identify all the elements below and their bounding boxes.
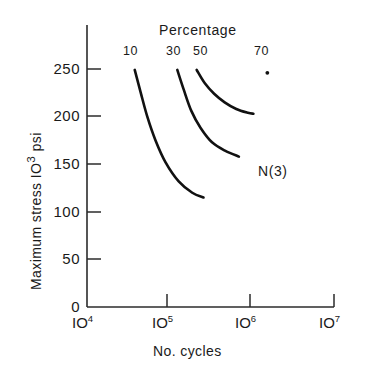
y-axis-title-exponent: 3 — [24, 156, 37, 163]
x-tick-exp-1e7: 7 — [335, 313, 340, 324]
y-tick-label-200: 200 — [36, 107, 80, 124]
data-series-layer — [135, 70, 269, 198]
y-axis-title-main: Maximum stress IO — [28, 163, 44, 290]
legend-title: Percentage — [159, 22, 237, 38]
x-axis-ticks — [167, 294, 334, 307]
x-tick-base-1e6: IO — [235, 314, 251, 331]
series-label-30: 30 — [166, 44, 181, 58]
data-curve-50 — [197, 70, 254, 114]
x-tick-label-1e4: IO4 — [72, 313, 93, 331]
x-axis-title: No. cycles — [153, 343, 222, 359]
x-tick-label-1e6: IO6 — [235, 313, 256, 331]
annotation-n3: N(3) — [258, 163, 288, 179]
data-curve-30 — [177, 70, 239, 157]
x-tick-label-1e7: IO7 — [319, 313, 340, 331]
series-label-50: 50 — [193, 44, 208, 58]
y-axis-ticks — [87, 69, 101, 259]
data-point-70 — [265, 71, 269, 75]
y-axis-title: Maximum stress IO3 psi — [24, 132, 44, 290]
series-label-70: 70 — [254, 44, 269, 58]
y-axis-title-suffix: psi — [28, 132, 44, 155]
data-curve-10 — [135, 70, 204, 198]
x-tick-exp-1e4: 4 — [88, 313, 93, 324]
x-tick-base-1e4: IO — [72, 314, 88, 331]
x-tick-base-1e5: IO — [152, 314, 168, 331]
x-tick-label-1e5: IO5 — [152, 313, 173, 331]
x-tick-base-1e7: IO — [319, 314, 335, 331]
chart-plot-area — [0, 0, 367, 382]
y-tick-label-250: 250 — [36, 60, 80, 77]
chart-figure: 250 200 150 100 50 0 IO4 IO5 IO6 IO7 No.… — [0, 0, 367, 382]
x-tick-exp-1e6: 6 — [251, 313, 256, 324]
x-tick-exp-1e5: 5 — [168, 313, 173, 324]
series-label-10: 10 — [123, 44, 138, 58]
